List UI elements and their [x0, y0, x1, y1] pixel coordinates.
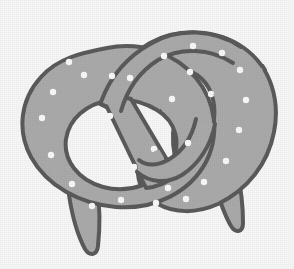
pretzel-illustration	[0, 0, 294, 269]
illustration-canvas: Pretzel A pretzel drawn as two interlock…	[0, 0, 294, 269]
paper-grain	[0, 0, 294, 269]
